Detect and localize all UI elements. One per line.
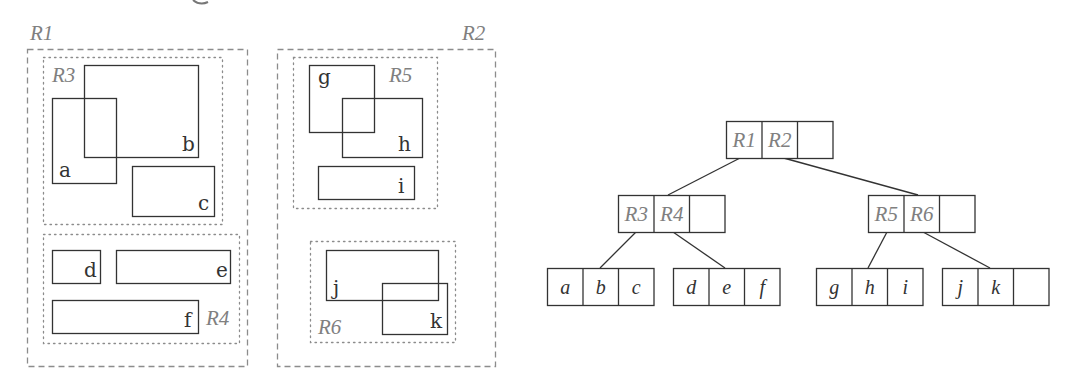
tree-node-n-R3R4: R3R4 <box>619 196 726 233</box>
region-entry-label: R4 <box>659 202 684 226</box>
object-label-i: i <box>398 174 404 198</box>
object-entry-label: i <box>902 276 908 298</box>
tree-node-leaf-ghi: ghi <box>817 269 924 306</box>
object-label-e: e <box>216 258 228 282</box>
object-label-g: g <box>318 65 331 89</box>
region-label-R4: R4 <box>205 306 230 330</box>
object-box-f <box>53 301 199 334</box>
rtree-diagram: R1R2R3R4R5R6abcdefghijk R1R2R3R4R5R6abcd… <box>0 0 1075 384</box>
node-entry-h: h <box>865 276 875 298</box>
tree-edge-n-R3R4 <box>668 157 742 195</box>
node-entry-R3: R3 <box>624 202 648 226</box>
region-entry-label: R5 <box>874 202 898 226</box>
node-entry-e: e <box>722 276 731 298</box>
tree-edge-leaf-jk <box>923 232 990 268</box>
object-entry-label: h <box>865 276 875 298</box>
node-entry-d: d <box>686 276 697 298</box>
region-entry-label: R3 <box>624 202 648 226</box>
object-label-a: a <box>59 158 71 182</box>
object-entry-label: c <box>632 276 641 298</box>
object-label-h: h <box>398 132 411 156</box>
node-entry-a: a <box>560 276 570 298</box>
cropped-artifact <box>193 0 208 4</box>
tree-edge-leaf-def <box>673 232 725 268</box>
region-label-R6: R6 <box>317 315 342 339</box>
object-entry-label: a <box>560 276 570 298</box>
object-entry-label: k <box>991 276 1001 298</box>
region-entry-label: R6 <box>909 202 934 226</box>
tree-edge-leaf-ghi <box>868 232 887 268</box>
object-entry-label: b <box>596 276 606 298</box>
object-label-b: b <box>182 132 195 156</box>
tree-node-leaf-jk: jk <box>943 269 1050 306</box>
region-entry-label: R2 <box>767 128 792 152</box>
tree-edge-leaf-abc <box>600 232 636 268</box>
object-entry-label: e <box>722 276 731 298</box>
object-entry-label: g <box>829 276 839 299</box>
object-label-d: d <box>84 258 97 282</box>
node-entry-k: k <box>991 276 1001 298</box>
tree-edge-n-R5R6 <box>780 157 918 195</box>
node-entry-R6: R6 <box>909 202 934 226</box>
region-label-R3: R3 <box>51 63 75 87</box>
object-box-e <box>117 251 231 284</box>
tree-node-n-R5R6: R5R6 <box>869 196 976 233</box>
object-label-c: c <box>198 191 209 215</box>
rtree-structure-panel: R1R2R3R4R5R6abcdefghijk <box>548 122 1050 306</box>
tree-node-root: R1R2 <box>727 122 834 159</box>
node-entry-i: i <box>902 276 908 298</box>
node-entry-R5: R5 <box>874 202 898 226</box>
node-entry-b: b <box>596 276 606 298</box>
region-label-R2: R2 <box>461 21 486 45</box>
region-label-R1: R1 <box>29 21 53 45</box>
spatial-layout-panel: R1R2R3R4R5R6abcdefghijk <box>28 21 496 367</box>
node-entry-R4: R4 <box>659 202 684 226</box>
object-label-j: j <box>331 276 339 300</box>
node-entry-c: c <box>632 276 641 298</box>
object-label-f: f <box>184 308 193 332</box>
object-entry-label: d <box>686 276 697 298</box>
tree-node-leaf-def: def <box>674 269 781 306</box>
region-entry-label: R1 <box>732 128 756 152</box>
node-entry-R2: R2 <box>767 128 792 152</box>
object-label-k: k <box>430 309 443 333</box>
node-entry-g: g <box>829 276 839 299</box>
node-entry-R1: R1 <box>732 128 756 152</box>
region-label-R5: R5 <box>388 63 412 87</box>
tree-node-leaf-abc: abc <box>548 269 655 306</box>
